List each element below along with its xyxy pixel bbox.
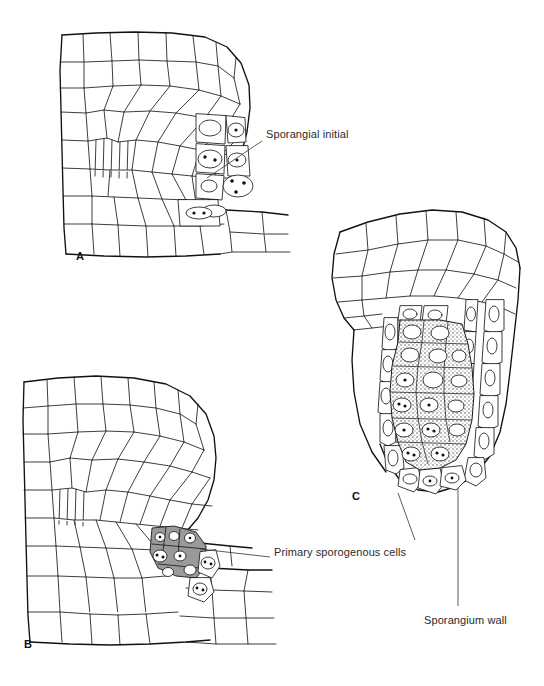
label-sporangial-initial: Sporangial initial xyxy=(266,128,349,140)
panel-a-artwork xyxy=(60,32,290,257)
leader-primary-sporogenous-right xyxy=(398,493,415,540)
panel-b-artwork xyxy=(23,376,276,645)
panel-letter-a: A xyxy=(76,250,84,262)
figure-artwork xyxy=(0,0,544,686)
panel-letter-c: C xyxy=(352,490,360,502)
label-sporangium-wall: Sporangium wall xyxy=(424,614,507,626)
label-primary-sporogenous-cells: Primary sporogenous cells xyxy=(274,546,406,558)
sporangium-development-figure: A B C Sporangial initial Primary sporoge… xyxy=(0,0,544,686)
panel-a-sporangial-cells xyxy=(178,114,253,226)
panel-letter-b: B xyxy=(24,638,32,650)
panel-b-sporogenous-cells xyxy=(150,526,220,602)
